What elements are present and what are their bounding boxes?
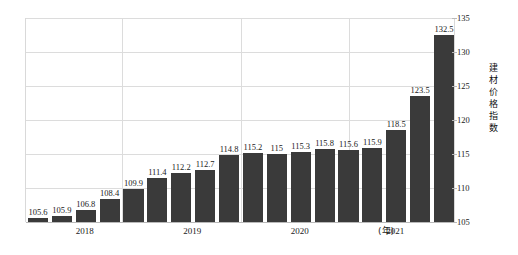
y-axis-title: 建材价格指数 (486, 62, 500, 134)
bar-slot: 115.2 (241, 18, 265, 222)
bar-slot: 123.5 (408, 18, 432, 222)
bar-slot: 112.7 (193, 18, 217, 222)
x-axis-label-2019: 2019 (183, 226, 201, 236)
bar-value-label: 115.3 (291, 142, 310, 151)
bar-slot: 118.5 (384, 18, 408, 222)
y-tick-label-110: 110 (457, 184, 469, 193)
y-tick-label-115: 115 (457, 150, 469, 159)
bar-value-label: 115.2 (244, 143, 263, 152)
bar-value-label: 105.9 (52, 206, 71, 215)
y-tick-label-120: 120 (457, 116, 470, 125)
bar-value-label: 109.9 (124, 179, 143, 188)
bar[interactable] (76, 210, 96, 222)
bar-value-label: 115.8 (315, 139, 334, 148)
bar-value-label: 108.4 (100, 189, 119, 198)
bar-slot: 109.9 (122, 18, 146, 222)
bar[interactable] (219, 155, 239, 222)
bar-slot: 106.8 (74, 18, 98, 222)
bar[interactable] (147, 178, 167, 222)
bar[interactable] (100, 199, 120, 222)
bar[interactable] (195, 170, 215, 222)
bar-value-label: 112.7 (196, 160, 215, 169)
bar-value-label: 112.2 (172, 163, 191, 172)
bar-value-label: 115.9 (363, 138, 382, 147)
bar-slot: 108.4 (98, 18, 122, 222)
chart-figure: 105.6105.9106.8108.4109.9111.4112.2112.7… (0, 0, 518, 255)
bar-value-label: 132.5 (434, 25, 453, 34)
bar-value-label: 114.8 (220, 145, 239, 154)
bar[interactable] (52, 216, 72, 222)
bar-value-label: 111.4 (148, 168, 167, 177)
bar[interactable] (243, 153, 263, 222)
y-tick-label-105: 105 (457, 218, 470, 227)
bar[interactable] (434, 35, 454, 222)
bar-slot: 111.4 (145, 18, 169, 222)
x-axis-unit-label: (年) (378, 226, 394, 236)
bar-value-label: 115 (271, 144, 283, 153)
bar[interactable] (267, 154, 287, 222)
bar[interactable] (123, 189, 143, 222)
bar-slot: 115.9 (360, 18, 384, 222)
bar-series: 105.6105.9106.8108.4109.9111.4112.2112.7… (26, 18, 454, 222)
x-axis-label-2018: 2018 (76, 226, 94, 236)
bar-value-label: 115.6 (339, 140, 358, 149)
y-tick-label-125: 125 (457, 82, 470, 91)
plot-area: 105.6105.9106.8108.4109.9111.4112.2112.7… (25, 18, 455, 222)
bar[interactable] (410, 96, 430, 222)
bar-slot: 112.2 (169, 18, 193, 222)
bar[interactable] (28, 218, 48, 222)
bar-slot: 115.6 (337, 18, 361, 222)
bar[interactable] (171, 173, 191, 222)
bar[interactable] (338, 150, 358, 222)
bar[interactable] (291, 152, 311, 222)
bar-slot: 115 (265, 18, 289, 222)
bar-slot: 105.6 (26, 18, 50, 222)
bar-value-label: 106.8 (76, 200, 95, 209)
bar-slot: 114.8 (217, 18, 241, 222)
bar-value-label: 123.5 (411, 86, 430, 95)
bar-value-label: 105.6 (28, 208, 47, 217)
bar-slot: 105.9 (50, 18, 74, 222)
bar-value-label: 118.5 (387, 120, 406, 129)
bar[interactable] (386, 130, 406, 222)
bar[interactable] (315, 149, 335, 222)
y-tick-label-135: 135 (457, 14, 470, 23)
gridline-y-105 (26, 222, 454, 223)
x-axis-label-2020: 2020 (291, 226, 309, 236)
bar-slot: 115.8 (313, 18, 337, 222)
bar[interactable] (362, 148, 382, 222)
y-tick-label-130: 130 (457, 48, 470, 57)
bar-slot: 115.3 (289, 18, 313, 222)
